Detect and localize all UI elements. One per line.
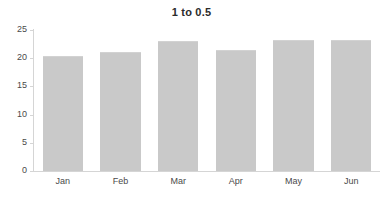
x-axis-line (33, 171, 380, 172)
y-axis-tick-mark (30, 115, 33, 116)
bar-group (216, 30, 256, 171)
bar-group (43, 30, 83, 171)
plot-area (34, 30, 380, 171)
y-axis-tick-label: 20 (17, 52, 27, 62)
x-axis-tick-label: Feb (92, 176, 150, 186)
bar-group (158, 30, 198, 171)
y-axis-tick-mark (30, 86, 33, 87)
bar-chart: 1 to 0.5 0510152025 JanFebMarAprMayJun (0, 0, 383, 202)
y-axis-tick-mark (30, 58, 33, 59)
bar-group (331, 30, 371, 171)
bar-group (100, 30, 140, 171)
y-axis-tick-label: 0 (22, 165, 27, 175)
x-axis-tick-label: Jan (34, 176, 92, 186)
chart-title: 1 to 0.5 (0, 6, 383, 18)
bar[interactable] (216, 50, 256, 171)
y-axis-tick-label: 15 (17, 80, 27, 90)
y-axis-tick-label: 10 (17, 109, 27, 119)
x-axis-tick-labels: JanFebMarAprMayJun (34, 176, 380, 194)
y-axis-tick-label: 25 (17, 24, 27, 34)
y-axis-tick-label: 5 (22, 137, 27, 147)
x-axis-tick-label: Apr (207, 176, 265, 186)
bar[interactable] (331, 40, 371, 171)
bar[interactable] (100, 52, 140, 171)
bar[interactable] (158, 41, 198, 171)
y-axis-tick-mark (30, 143, 33, 144)
y-axis-tick-mark (30, 30, 33, 31)
y-axis-tick-labels: 0510152025 (0, 0, 33, 202)
bar[interactable] (273, 40, 313, 171)
bar[interactable] (43, 56, 83, 171)
x-axis-tick-label: Jun (322, 176, 380, 186)
y-axis-tick-mark (30, 171, 33, 172)
bar-group (273, 30, 313, 171)
x-axis-tick-label: May (265, 176, 323, 186)
x-axis-tick-label: Mar (149, 176, 207, 186)
